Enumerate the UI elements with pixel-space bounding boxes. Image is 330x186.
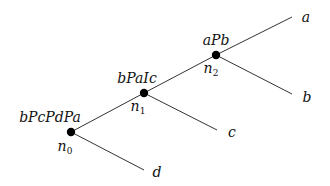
leaf-c-label: c [228, 124, 236, 140]
node-n1-preference: bPaIc [117, 70, 157, 86]
leaf-b-label: b [303, 89, 312, 105]
edge-n1-c [144, 93, 217, 130]
node-n2 [212, 51, 220, 59]
leaf-d-label: d [153, 164, 162, 180]
node-n1-name: n1 [131, 98, 146, 116]
leaf-a-label: a [302, 9, 310, 25]
edge-n2-b [216, 55, 292, 94]
decision-tree-diagram: bPcPdPa bPaIc aPb n0 n1 n2 a b c d [0, 0, 330, 186]
node-n2-name: n2 [204, 60, 219, 78]
node-n2-preference: aPb [203, 32, 230, 48]
node-n0-name: n0 [58, 138, 73, 156]
edge-n0-d [71, 132, 144, 170]
node-n0-preference: bPcPdPa [19, 109, 81, 125]
node-n1 [140, 89, 148, 97]
node-n0 [67, 128, 75, 136]
